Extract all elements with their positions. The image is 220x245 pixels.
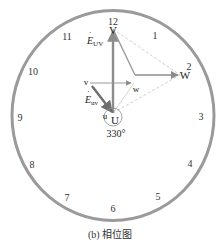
phasor-clock-diagram: 12 1 2 3 4 5 6 7 8 9 10 11 V W U v w u E… [0, 0, 220, 245]
numeral-10: 10 [28, 66, 38, 77]
figure-caption: (b) 相位图 [0, 226, 220, 241]
dashed-construction-lines [113, 29, 180, 113]
vertex-label-V: V [109, 24, 117, 36]
numeral-4: 4 [188, 158, 193, 169]
numeral-1: 1 [153, 30, 158, 41]
numeral-11: 11 [62, 31, 72, 42]
dashed-line-u-w [113, 75, 180, 113]
numeral-6: 6 [111, 203, 116, 214]
dot-accent: · [87, 87, 90, 96]
vertex-label-w: w [133, 84, 140, 94]
phase-angle-label: 330° [107, 128, 126, 139]
emf-label-primary: EUV · [86, 28, 103, 48]
vertex-label-v: v [84, 77, 89, 87]
numeral-8: 8 [30, 159, 35, 170]
numeral-5: 5 [156, 191, 161, 202]
numeral-7: 7 [65, 192, 70, 203]
numeral-3: 3 [199, 111, 204, 122]
dashed-line-v-w [113, 29, 180, 75]
vertex-label-u: u [103, 111, 108, 121]
vertex-label-W: W [180, 69, 191, 81]
numeral-9: 9 [18, 112, 23, 123]
dot-accent: · [89, 28, 92, 37]
vertex-label-U: U [111, 114, 119, 126]
